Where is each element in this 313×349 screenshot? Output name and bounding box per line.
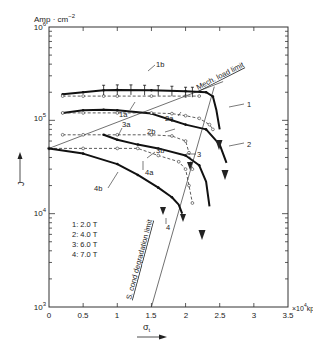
arrow-2-icon — [222, 170, 229, 180]
legend-item-4: 4: 7.0 T — [72, 250, 98, 259]
label-2: 2 — [247, 140, 251, 149]
label-2a: 2a — [165, 114, 174, 123]
leader-2b — [165, 129, 175, 132]
leader-1a — [130, 102, 135, 110]
data-point — [184, 168, 187, 171]
data-point — [177, 160, 180, 163]
label-1a: 1a — [119, 110, 128, 119]
data-point — [136, 143, 139, 146]
data-point — [116, 147, 119, 150]
data-point — [198, 117, 201, 120]
label-2b: 2b — [147, 127, 155, 136]
y-unit-label: Amp · cm−2 — [34, 13, 76, 24]
y-tick-1e3: 103 — [34, 301, 47, 312]
x-tick-0.5: 0.5 — [77, 311, 89, 320]
x-tick-2.5: 2.5 — [214, 311, 226, 320]
data-point — [61, 112, 64, 115]
series-4a — [49, 148, 192, 203]
data-point — [208, 123, 211, 126]
leader-2 — [229, 143, 244, 146]
legend-item-3: 3: 6.0 T — [72, 240, 98, 249]
x-arrow-head-icon — [159, 335, 167, 340]
data-point — [116, 163, 119, 166]
data-point — [116, 138, 119, 141]
plot-frame — [49, 27, 288, 307]
data-point — [61, 133, 64, 136]
data-point — [205, 128, 208, 131]
data-point — [184, 114, 187, 117]
x-tick-1: 1 — [115, 311, 120, 320]
data-point — [82, 95, 85, 98]
y-axis-title: J — [16, 152, 26, 186]
data-point — [211, 128, 214, 131]
data-point — [150, 95, 153, 98]
data-point — [188, 184, 191, 187]
series-4b — [49, 148, 182, 213]
leader-1 — [229, 104, 244, 107]
data-point — [82, 147, 85, 150]
data-point — [82, 112, 85, 115]
label-3b: 3b — [156, 146, 164, 155]
series-2a — [63, 113, 213, 129]
data-point — [171, 135, 174, 138]
arrow-4a-icon — [180, 214, 186, 222]
data-point — [205, 91, 208, 94]
legend: 1: 2.0 T 2: 4.0 T 3: 6.0 T 4: 7.0 T — [72, 220, 98, 259]
label-3: 3 — [197, 150, 201, 159]
y-arrow-head-icon — [18, 152, 23, 159]
arrow-4b-icon — [160, 207, 166, 215]
legend-item-2: 2: 4.0 T — [72, 230, 98, 239]
label-3a: 3a — [122, 120, 131, 129]
legend-item-1: 1: 2.0 T — [72, 220, 98, 229]
x-axis-label: σt — [143, 322, 151, 333]
data-point — [102, 108, 105, 111]
data-point — [102, 133, 105, 136]
data-point — [198, 95, 201, 98]
data-point — [136, 174, 139, 177]
data-point — [82, 109, 85, 112]
data-point — [150, 89, 153, 92]
x-unit-label: ×104kp/cm2 — [292, 302, 313, 313]
x-tick-3.5: 3.5 — [282, 311, 294, 320]
data-point — [48, 147, 51, 150]
data-point — [116, 95, 119, 98]
x-tick-1.5: 1.5 — [145, 311, 157, 320]
x-tick-2: 2 — [184, 311, 189, 320]
series-s-cond-degradation-limit — [151, 87, 214, 307]
data-point — [212, 95, 215, 98]
data-point — [184, 154, 187, 157]
data-point — [191, 168, 194, 171]
label-1: 1 — [247, 100, 251, 109]
y-tick-labels: 106 105 104 103 — [34, 21, 47, 312]
data-point — [150, 112, 153, 115]
data-point — [188, 151, 191, 154]
data-point — [191, 202, 194, 205]
leader-2a — [178, 112, 181, 116]
data-point — [171, 196, 174, 199]
data-point — [82, 152, 85, 155]
data-point — [198, 164, 201, 167]
y-axis-label: J — [16, 182, 26, 187]
data-point — [184, 123, 187, 126]
data-point — [82, 91, 85, 94]
leader-4b — [108, 172, 118, 188]
mech-load-limit-label: Mech. load limit — [195, 60, 246, 92]
chart: 106 105 104 103 0 0.5 1 1.5 2 2.5 3 3.5 … — [0, 0, 313, 349]
label-1b: 1b — [156, 60, 164, 69]
data-point — [61, 95, 64, 98]
x-axis-title: σt — [137, 322, 167, 340]
y-tick-1e5: 105 — [34, 112, 47, 123]
data-point — [157, 186, 160, 189]
y-tick-1e4: 104 — [34, 207, 47, 218]
label-4a: 4a — [145, 168, 154, 177]
arrow-3b-icon — [199, 230, 206, 240]
x-tick-0: 0 — [47, 311, 52, 320]
label-4b: 4b — [94, 184, 102, 193]
data-point — [136, 147, 139, 150]
label-4: 4 — [166, 223, 170, 232]
data-point — [82, 133, 85, 136]
leader-1b — [148, 65, 155, 71]
data-point — [184, 140, 187, 143]
x-tick-3: 3 — [252, 311, 257, 320]
scond-degradation-limit-label: S. cond degradation limit — [124, 218, 154, 301]
